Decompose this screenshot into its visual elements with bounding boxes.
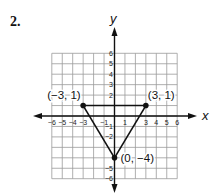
y-tick-label: −1 xyxy=(105,123,113,130)
vertex-point xyxy=(143,103,149,109)
vertex-label: (−3, 1) xyxy=(47,89,81,101)
x-tick-label: 6 xyxy=(175,119,179,126)
vertex-label: (0, −4) xyxy=(121,152,155,164)
x-axis-left-arrow-icon xyxy=(33,113,42,119)
x-axis-label: x xyxy=(201,108,209,123)
x-tick-label: 4 xyxy=(154,119,158,126)
x-tick-label: −3 xyxy=(79,119,87,126)
y-tick-label: 6 xyxy=(109,50,113,57)
x-tick-label: 1 xyxy=(123,119,127,126)
y-axis-up-arrow-icon xyxy=(112,27,118,36)
vertex-point xyxy=(80,103,86,109)
x-tick-label: −6 xyxy=(48,119,56,126)
coordinate-plane: −6−5−4−3−11345665432−1−2−5−6 (−3, 1)(3, … xyxy=(0,0,218,195)
y-tick-label: 3 xyxy=(109,81,113,88)
y-tick-label: 5 xyxy=(109,60,113,67)
vertex-label: (3, 1) xyxy=(148,89,175,101)
x-tick-label: −5 xyxy=(58,119,66,126)
vertex-point xyxy=(112,155,118,161)
x-tick-label: 5 xyxy=(165,119,169,126)
y-tick-label: 4 xyxy=(109,71,113,78)
x-tick-label: 3 xyxy=(144,119,148,126)
y-axis-down-arrow-icon xyxy=(112,184,118,193)
y-tick-label: 2 xyxy=(109,92,113,99)
y-tick-label: −2 xyxy=(105,133,113,140)
y-axis-label: y xyxy=(109,11,118,26)
x-tick-label: −4 xyxy=(69,119,77,126)
x-axis-right-arrow-icon xyxy=(188,113,197,119)
triangle-edge xyxy=(115,106,146,158)
y-tick-label: −5 xyxy=(105,165,113,172)
y-tick-label: −6 xyxy=(105,175,113,182)
triangle-edge xyxy=(83,106,114,158)
